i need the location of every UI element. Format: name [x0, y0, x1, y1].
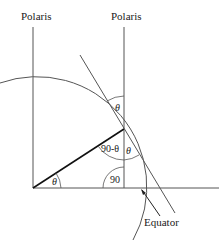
equator-label: Equator [144, 216, 179, 228]
angle-label-90-minus-theta: 90-θ [101, 143, 119, 154]
earth-arc [0, 77, 147, 240]
angle-label-theta-center: θ [52, 176, 57, 187]
angle-label-90: 90 [110, 174, 120, 185]
horizon-line [80, 55, 175, 213]
latitude-diagram: Polaris Polaris Equator θ θ 90-θ θ 90 [0, 0, 221, 243]
angle-arc-theta-top [107, 96, 124, 101]
equator-arrow [142, 190, 160, 216]
polaris-label-right: Polaris [111, 10, 142, 22]
polaris-label-left: Polaris [21, 10, 52, 22]
angle-label-theta-lower: θ [126, 145, 131, 156]
angle-label-theta-top: θ [115, 102, 120, 113]
